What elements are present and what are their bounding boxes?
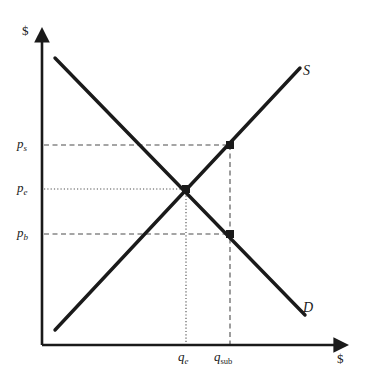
price-tick-sub-pb: b (24, 232, 29, 242)
price-tick-sub-pe: e (24, 187, 28, 197)
supply-curve[interactable] (55, 68, 300, 330)
demand-curve[interactable] (55, 58, 305, 315)
price-tick-label-ps: ps (17, 137, 27, 150)
supply-curve-label: S (303, 64, 310, 78)
x-axis-label: $ (337, 352, 344, 365)
price-tick-label-pb: pb (17, 226, 28, 239)
price-tick-base-ps: p (17, 136, 24, 151)
price-tick-label-pe: pe (17, 181, 28, 194)
plot-points (182, 141, 234, 238)
price-tick-base-pe: p (17, 180, 24, 195)
equilibrium-point-marker[interactable] (182, 185, 190, 193)
quantity-tick-base-qe: q (178, 349, 185, 364)
demand-curve-label: D (303, 301, 313, 315)
curves (55, 58, 305, 330)
y-axis-label: $ (22, 24, 29, 37)
price-tick-base-pb: p (17, 225, 24, 240)
quantity-tick-sub-qsub: sub (221, 356, 233, 366)
quantity-tick-base-qsub: q (214, 349, 221, 364)
seller-price-point-marker[interactable] (226, 141, 234, 149)
supply-demand-chart: $ $ S D ps pe pb qe qsub (0, 0, 367, 383)
price-tick-sub-ps: s (24, 143, 28, 153)
quantity-tick-label-qsub: qsub (214, 350, 232, 363)
buyer-price-point-marker[interactable] (226, 230, 234, 238)
chart-canvas (0, 0, 367, 383)
quantity-tick-label-qe: qe (178, 350, 189, 363)
quantity-tick-sub-qe: e (185, 356, 189, 366)
